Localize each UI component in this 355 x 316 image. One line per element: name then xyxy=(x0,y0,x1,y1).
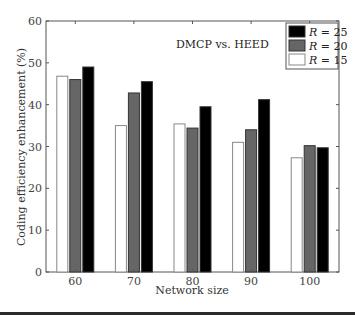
bar xyxy=(187,128,198,272)
x-tick-label: 100 xyxy=(299,275,320,288)
bar xyxy=(141,82,152,272)
y-tick-label: 20 xyxy=(28,182,42,195)
bar xyxy=(233,142,244,272)
legend-label: R = 20 xyxy=(308,40,348,53)
y-tick-label: 60 xyxy=(28,15,42,28)
y-axis-title: Coding efficiency enhancement (%) xyxy=(15,48,28,246)
bar xyxy=(246,130,257,272)
legend-swatch xyxy=(289,54,305,65)
bar xyxy=(83,67,94,272)
x-tick-label: 90 xyxy=(244,275,258,288)
chart-annotation: DMCP vs. HEED xyxy=(176,38,269,51)
bar xyxy=(291,158,302,272)
legend-swatch xyxy=(289,26,305,37)
y-tick-label: 0 xyxy=(35,266,42,279)
bar xyxy=(259,100,270,272)
legend-label: R = 25 xyxy=(308,26,348,39)
x-tick-label: 70 xyxy=(127,275,141,288)
bar xyxy=(57,76,68,272)
x-axis-title: Network size xyxy=(155,284,228,297)
legend-swatch xyxy=(289,40,305,51)
bar xyxy=(200,107,211,272)
bar xyxy=(304,146,315,272)
y-tick-label: 30 xyxy=(28,141,42,154)
y-tick-label: 50 xyxy=(28,57,42,70)
bar xyxy=(317,148,328,272)
y-tick-label: 10 xyxy=(28,224,42,237)
bars-group xyxy=(57,67,328,272)
y-tick-label: 40 xyxy=(28,99,42,112)
bar xyxy=(70,80,81,272)
x-tick-label: 60 xyxy=(68,275,82,288)
bottom-divider xyxy=(0,312,355,315)
legend-label: R = 15 xyxy=(308,54,348,67)
bar-chart: 0102030405060 60708090100 DMCP vs. HEED … xyxy=(0,0,355,316)
bar xyxy=(128,93,139,272)
bar xyxy=(115,126,126,272)
bar xyxy=(174,124,185,272)
legend: R = 25R = 20R = 15 xyxy=(286,23,348,69)
